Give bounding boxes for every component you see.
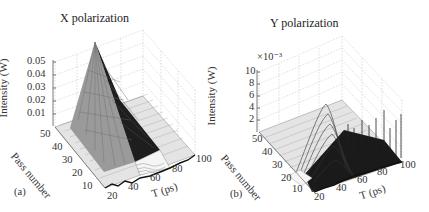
x-tick: 100 (196, 153, 212, 164)
x-tick: 20 (107, 190, 118, 201)
y-tick: 40 (52, 141, 63, 152)
z-tick: 0.02 (27, 94, 45, 105)
z-tick: 4 (249, 101, 254, 112)
panel-label: (b) (230, 188, 242, 199)
z-axis-label: Intensity (W) (205, 67, 217, 126)
y-tick: 20 (72, 167, 83, 178)
z-tick: 0.05 (27, 55, 45, 66)
z-tick: 10 (245, 65, 256, 76)
x-tick: 40 (336, 182, 347, 193)
x-tick: 40 (128, 181, 139, 192)
y-tick: 50 (40, 128, 51, 139)
panel-label: (a) (14, 186, 26, 197)
z-tick: 8 (249, 77, 254, 88)
z-tick: 6 (249, 89, 254, 100)
x-tick: 20 (314, 191, 325, 202)
y-tick: 40 (262, 146, 273, 157)
z-tick: 0.04 (27, 68, 45, 79)
panel-y-polarization: Y polarization ×10⁻³ Intensity (W) 10 8 … (214, 0, 429, 212)
z-tick: 2 (249, 113, 254, 124)
y-tick: 30 (62, 154, 73, 165)
y-tick: 50 (252, 133, 263, 144)
x-tick: 60 (150, 172, 161, 183)
chart-title: X polarization (60, 11, 129, 26)
x-tick: 80 (172, 163, 183, 174)
x-tick: 60 (357, 174, 368, 185)
y-tick: 10 (292, 183, 303, 194)
axis-multiplier: ×10⁻³ (257, 50, 282, 62)
y-tick: 10 (82, 180, 93, 191)
z-axis-label: Intensity (W) (0, 59, 9, 118)
chart-title: Y polarization (270, 16, 339, 31)
y-tick: 30 (272, 159, 283, 170)
y-tick: 20 (281, 172, 292, 183)
x-tick: 80 (377, 166, 388, 177)
x-tick: 100 (400, 159, 416, 170)
z-tick: 0.01 (27, 107, 45, 118)
z-tick: 0.03 (27, 81, 45, 92)
panel-x-polarization: X polarization Intensity (W) 0.05 0.04 0… (0, 0, 215, 212)
